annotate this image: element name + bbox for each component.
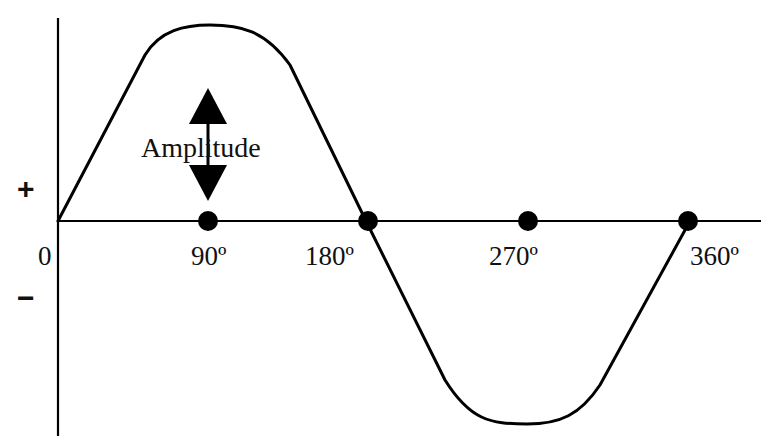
sine-wave-diagram: Amplitude + − 0 90º 180º 270º 360º (0, 0, 779, 444)
diagram-graphic (0, 0, 779, 444)
tick-label-360: 360º (690, 243, 739, 270)
tick-label-180: 180º (305, 243, 354, 270)
tick-label-90: 90º (191, 243, 226, 270)
point-180-marker (358, 211, 378, 231)
tick-label-270: 270º (489, 243, 538, 270)
amplitude-label: Amplitude (141, 134, 261, 162)
tick-label-0: 0 (38, 243, 52, 270)
positive-sign-label: + (17, 174, 35, 204)
point-90-marker (198, 211, 218, 231)
point-360-marker (678, 211, 698, 231)
point-270-marker (518, 211, 538, 231)
negative-sign-label: − (17, 283, 35, 313)
